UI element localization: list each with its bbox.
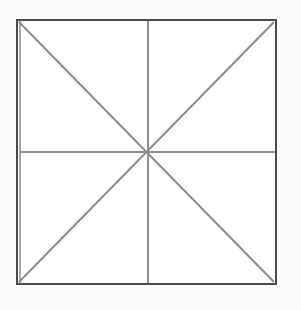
square-diagonals-diagram	[0, 0, 301, 310]
interior-lines	[19, 21, 275, 283]
diagram-canvas	[0, 0, 301, 310]
